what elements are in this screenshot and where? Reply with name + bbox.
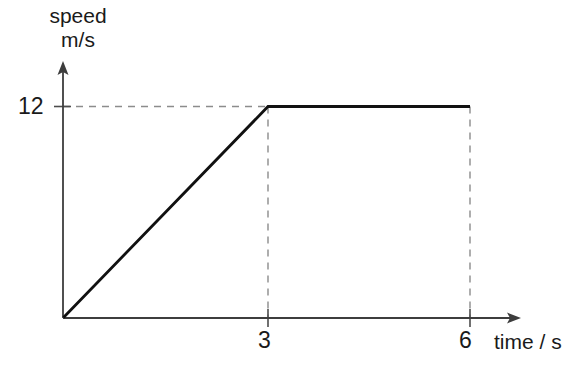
y-axis-title-line2: m/s [30, 28, 126, 52]
y-axis-tick-label-12: 12 [18, 94, 44, 120]
x-axis-title: time / s [494, 330, 562, 354]
x-axis-tick-label-3: 3 [258, 328, 271, 354]
y-axis-title-line1: speed [49, 4, 106, 27]
chart-canvas [0, 0, 584, 369]
speed-time-data-line [64, 107, 471, 318]
speed-time-graph-figure: speed m/s 12 3 6 time / s [0, 0, 584, 369]
x-axis-tick-label-6: 6 [459, 328, 472, 354]
y-axis-title: speed m/s [30, 4, 126, 51]
